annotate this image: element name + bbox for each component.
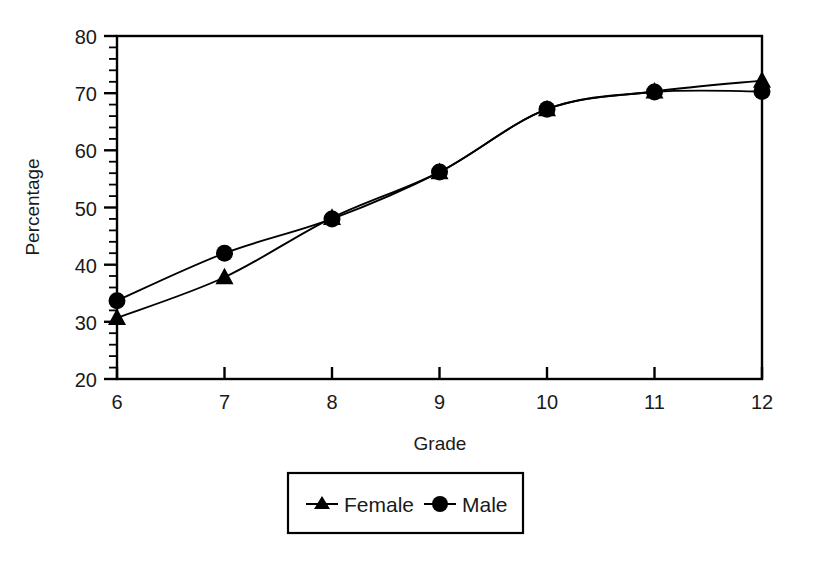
x-axis-title: Grade xyxy=(414,433,467,454)
male-series-markers xyxy=(109,83,771,309)
x-tick-labels: 6 7 8 9 10 11 12 xyxy=(111,391,773,413)
circle-data-point xyxy=(324,210,341,227)
y-tick-label: 30 xyxy=(75,312,97,334)
y-tick-label: 40 xyxy=(75,255,97,277)
y-tick-label: 20 xyxy=(75,369,97,391)
legend-label-male: Male xyxy=(462,493,508,516)
x-tick-label: 12 xyxy=(751,391,773,413)
circle-data-point xyxy=(431,164,448,181)
y-axis-major-ticks xyxy=(104,36,117,379)
circle-data-point xyxy=(539,101,556,118)
y-tick-label: 70 xyxy=(75,83,97,105)
series-lines xyxy=(117,81,762,318)
x-tick-label: 10 xyxy=(536,391,558,413)
circle-data-point xyxy=(109,292,126,309)
legend-label-female: Female xyxy=(344,493,414,516)
circle-data-point xyxy=(646,84,663,101)
y-tick-label: 50 xyxy=(75,198,97,220)
y-tick-labels: 80 70 60 50 40 30 20 xyxy=(75,26,97,391)
plot-border xyxy=(117,36,762,379)
male-series-line xyxy=(117,91,762,301)
chart-figure: 80 70 60 50 40 30 20 6 7 8 9 10 11 12 Pe… xyxy=(0,0,817,570)
triangle-data-point xyxy=(215,268,233,285)
x-tick-label: 7 xyxy=(219,391,230,413)
x-tick-label: 9 xyxy=(434,391,445,413)
y-tick-label: 80 xyxy=(75,26,97,48)
circle-marker-icon xyxy=(432,496,448,512)
x-tick-label: 11 xyxy=(644,391,665,413)
chart-legend: Female Male xyxy=(288,473,523,533)
female-series-markers xyxy=(108,71,771,325)
line-chart: 80 70 60 50 40 30 20 6 7 8 9 10 11 12 Pe… xyxy=(0,0,817,570)
y-tick-label: 60 xyxy=(75,140,97,162)
circle-data-point xyxy=(754,83,771,100)
plot-frame xyxy=(117,36,762,379)
circle-data-point xyxy=(216,245,233,262)
female-series-line xyxy=(117,81,762,318)
x-tick-label: 8 xyxy=(326,391,337,413)
x-tick-label: 6 xyxy=(111,391,122,413)
y-axis-title: Percentage xyxy=(22,158,43,255)
x-axis-ticks xyxy=(117,367,762,379)
